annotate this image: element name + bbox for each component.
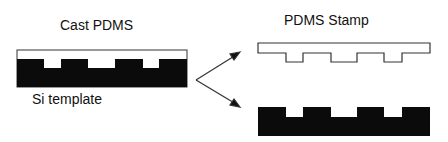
arrow-up-line: [196, 55, 236, 80]
si-template-released-shape: [258, 107, 430, 136]
arrow-down-head-icon: [230, 99, 240, 107]
split-arrows: [196, 52, 240, 107]
pdms-process-diagram: Cast PDMS Si template PDMS Stamp: [0, 0, 448, 142]
pdms-stamp-shape: [258, 43, 430, 62]
arrow-down-line: [196, 80, 236, 104]
diagram-graphics: [0, 0, 448, 142]
cast-pdms-on-si-template: [17, 50, 187, 87]
arrow-up-head-icon: [230, 52, 240, 60]
